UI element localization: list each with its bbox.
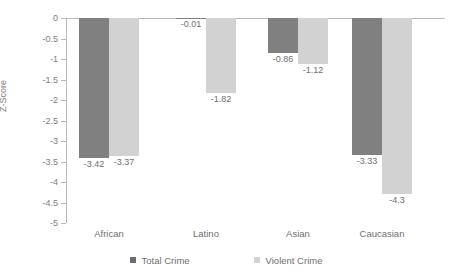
legend-swatch-icon [254, 257, 260, 263]
y-axis-tick-mark [61, 162, 66, 163]
x-axis-category-label: Latino [156, 228, 256, 239]
y-axis-tick-label: -1.5 [4, 75, 58, 85]
legend-item[interactable]: Total Crime [130, 255, 190, 266]
bar-violent-crime[interactable] [109, 18, 139, 156]
bar-group: -0.01-1.82 [176, 18, 236, 223]
bar-total-crime[interactable] [79, 18, 109, 158]
bar-value-label: -1.82 [198, 94, 244, 104]
chart-legend: Total CrimeViolent Crime [0, 252, 452, 268]
y-axis-tick-label: -5 [4, 218, 58, 228]
y-axis-tick-mark [61, 100, 66, 101]
y-axis-tick-labels: 0-0.5-1-1.5-2-2.5-3-3.5-4-4.5-5 [0, 18, 58, 223]
y-axis-tick-label: -1 [4, 54, 58, 64]
y-axis-tick-mark [61, 203, 66, 204]
y-axis-tick-mark [61, 223, 66, 224]
y-axis-tick-mark [61, 182, 66, 183]
bar-violent-crime[interactable] [298, 18, 328, 64]
y-axis-tick-label: -0.5 [4, 34, 58, 44]
y-axis-title: Z-Score [0, 80, 8, 112]
y-axis-tick-mark [61, 80, 66, 81]
bar-violent-crime[interactable] [206, 18, 236, 93]
x-axis-category-label: Caucasian [332, 228, 432, 239]
bar-group: -3.42-3.37 [79, 18, 139, 223]
legend-label: Total Crime [142, 255, 190, 266]
legend-item[interactable]: Violent Crime [254, 255, 323, 266]
bar-chart: 0-0.5-1-1.5-2-2.5-3-3.5-4-4.5-5 Z-Score … [0, 0, 452, 276]
plot-area: -3.42-3.37-0.01-1.82-0.86-1.12-3.33-4.3 [66, 18, 445, 223]
bar-value-label: -4.3 [374, 195, 420, 205]
legend-swatch-icon [130, 257, 136, 263]
y-axis-tick-label: -4.5 [4, 198, 58, 208]
y-axis-tick-mark [61, 59, 66, 60]
bar-group: -0.86-1.12 [268, 18, 328, 223]
legend-label: Violent Crime [266, 255, 323, 266]
y-axis-tick-label: -4 [4, 177, 58, 187]
bar-group: -3.33-4.3 [352, 18, 412, 223]
x-axis-category-label: African [59, 228, 159, 239]
bar-value-label: -3.37 [101, 157, 147, 167]
y-axis-tick-label: -3 [4, 136, 58, 146]
y-axis-tick-mark [61, 141, 66, 142]
y-axis-tick-label: 0 [4, 13, 58, 23]
bar-violent-crime[interactable] [382, 18, 412, 194]
y-axis-tick-label: -2 [4, 95, 58, 105]
y-axis-tick-label: -2.5 [4, 116, 58, 126]
y-axis-tick-label: -3.5 [4, 157, 58, 167]
bar-total-crime[interactable] [352, 18, 382, 155]
bar-value-label: -1.12 [290, 65, 336, 75]
y-axis-tick-mark [61, 121, 66, 122]
bar-total-crime[interactable] [268, 18, 298, 53]
y-axis-tick-mark [61, 39, 66, 40]
y-axis-tick-mark [61, 18, 66, 19]
